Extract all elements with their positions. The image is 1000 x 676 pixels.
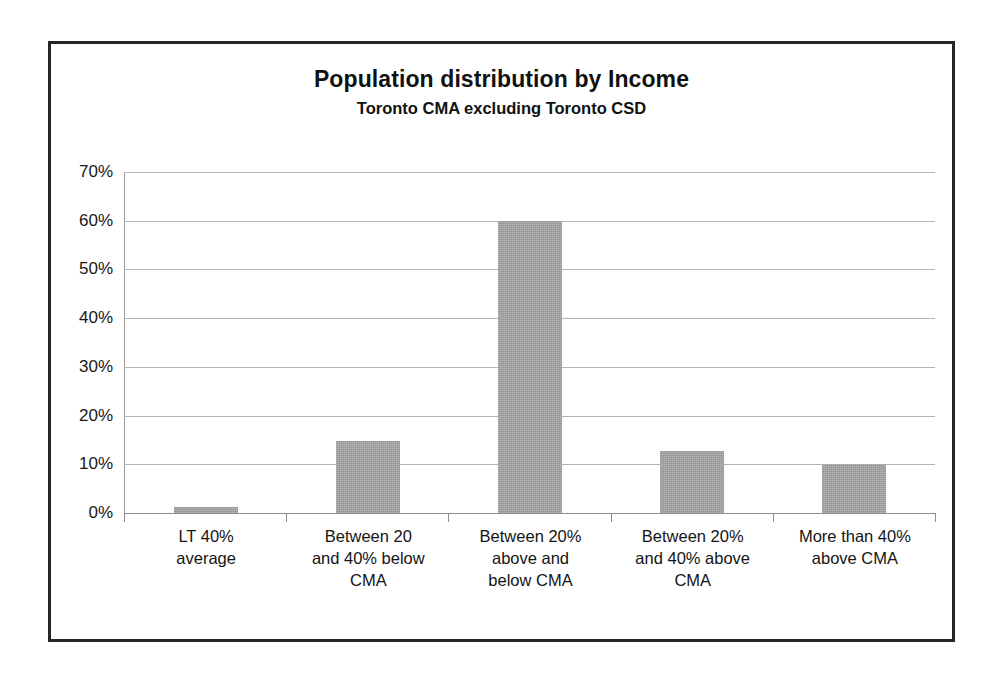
chart-page: Population distribution by Income Toront… xyxy=(0,0,1000,676)
bars-group xyxy=(125,172,935,513)
category-axis-tick xyxy=(611,513,612,522)
category-label: More than 40% above CMA xyxy=(774,526,936,591)
gridline-0: 0% xyxy=(124,513,935,514)
chart-subtitle: Toronto CMA excluding Toronto CSD xyxy=(51,99,952,118)
bar-2 xyxy=(336,441,400,513)
chart-frame: Population distribution by Income Toront… xyxy=(48,41,955,642)
y-axis-tick-label: 30% xyxy=(79,357,113,377)
y-axis-tick-label: 70% xyxy=(79,162,113,182)
y-axis-tick-label: 60% xyxy=(79,211,113,231)
category-axis-tick xyxy=(286,513,287,522)
page-title: Population distribution by Income xyxy=(51,66,952,92)
y-axis-tick-label: 0% xyxy=(88,503,113,523)
y-axis-tick-label: 10% xyxy=(79,454,113,474)
y-axis-tick-label: 50% xyxy=(79,259,113,279)
bar-5 xyxy=(822,464,886,513)
bar-3 xyxy=(498,221,562,513)
category-axis-tick xyxy=(935,513,936,522)
bar-slot xyxy=(611,172,773,513)
category-axis-labels: LT 40% averageBetween 20 and 40% below C… xyxy=(125,526,936,591)
bar-slot xyxy=(125,172,287,513)
category-axis-tick xyxy=(773,513,774,522)
category-label: Between 20 and 40% below CMA xyxy=(287,526,449,591)
bar-slot xyxy=(287,172,449,513)
category-label: LT 40% average xyxy=(125,526,287,591)
category-axis-tick xyxy=(124,513,125,522)
category-axis-tick xyxy=(448,513,449,522)
bar-slot xyxy=(773,172,935,513)
title-block: Population distribution by Income Toront… xyxy=(51,66,952,118)
y-axis-tick-label: 40% xyxy=(79,308,113,328)
category-label: Between 20% and 40% above CMA xyxy=(612,526,774,591)
bar-1 xyxy=(174,507,238,513)
bar-4 xyxy=(660,451,724,513)
category-label: Between 20% above and below CMA xyxy=(449,526,611,591)
plot-area: 70%60%50%40%30%20%10%0% xyxy=(124,172,935,513)
y-axis-tick-label: 20% xyxy=(79,406,113,426)
bar-slot xyxy=(449,172,611,513)
